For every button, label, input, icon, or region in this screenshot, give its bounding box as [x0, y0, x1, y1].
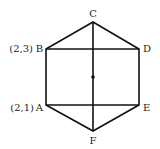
vertex-label-f: F	[90, 135, 97, 146]
vertex-label-e: E	[143, 102, 150, 113]
hexagon-diagram: C D E F B (2,3) A (2,1)	[0, 0, 160, 149]
vertex-label-b: B	[36, 43, 43, 54]
center-point	[91, 75, 95, 79]
vertex-label-a: A	[35, 102, 44, 113]
vertex-label-d: D	[143, 43, 151, 54]
vertex-coord-a: (2,1)	[10, 102, 34, 113]
vertex-coord-b: (2,3)	[9, 43, 33, 54]
vertex-label-c: C	[89, 8, 97, 19]
